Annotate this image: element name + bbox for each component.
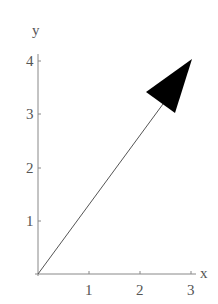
x-tick-label-1: 1	[85, 282, 93, 298]
y-tick-label-4: 4	[26, 53, 34, 69]
x-tick-label-2: 2	[136, 282, 144, 298]
y-tick-label-3: 3	[26, 106, 34, 122]
vector-plot: 1 2 3 4 1 2 3 y x	[0, 0, 218, 304]
y-tick-label-1: 1	[26, 213, 34, 229]
x-tick-label-3: 3	[187, 282, 195, 298]
vector-shaft	[38, 104, 163, 274]
vector-arrowhead	[146, 59, 192, 113]
x-axis-label: x	[200, 265, 208, 281]
y-axis-label: y	[32, 22, 40, 38]
y-tick-label-2: 2	[26, 160, 34, 176]
